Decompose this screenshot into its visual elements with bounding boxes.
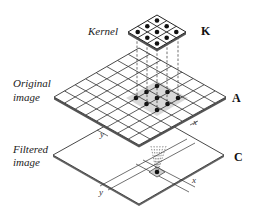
filtered-pixel-dot-icon — [155, 170, 160, 175]
axis-x-original: x — [192, 117, 197, 127]
axis-y-original: y — [99, 129, 104, 139]
original-image-label-line2: image — [13, 91, 40, 103]
original-image-letter: A — [232, 91, 241, 105]
kernel-letter: K — [201, 24, 211, 38]
convolution-diagram: x y — [0, 0, 267, 216]
kernel-label: Kernel — [87, 25, 118, 37]
filtered-image-label-line1: Filtered — [12, 143, 49, 155]
axis-y-filtered: y — [98, 187, 103, 197]
filtered-image-label-line2: image — [13, 156, 40, 168]
axis-x-filtered: x — [191, 175, 196, 185]
original-image-label-line1: Original — [13, 77, 51, 89]
filtered-image-letter: C — [234, 150, 243, 164]
original-image-plane: x y — [54, 48, 226, 148]
